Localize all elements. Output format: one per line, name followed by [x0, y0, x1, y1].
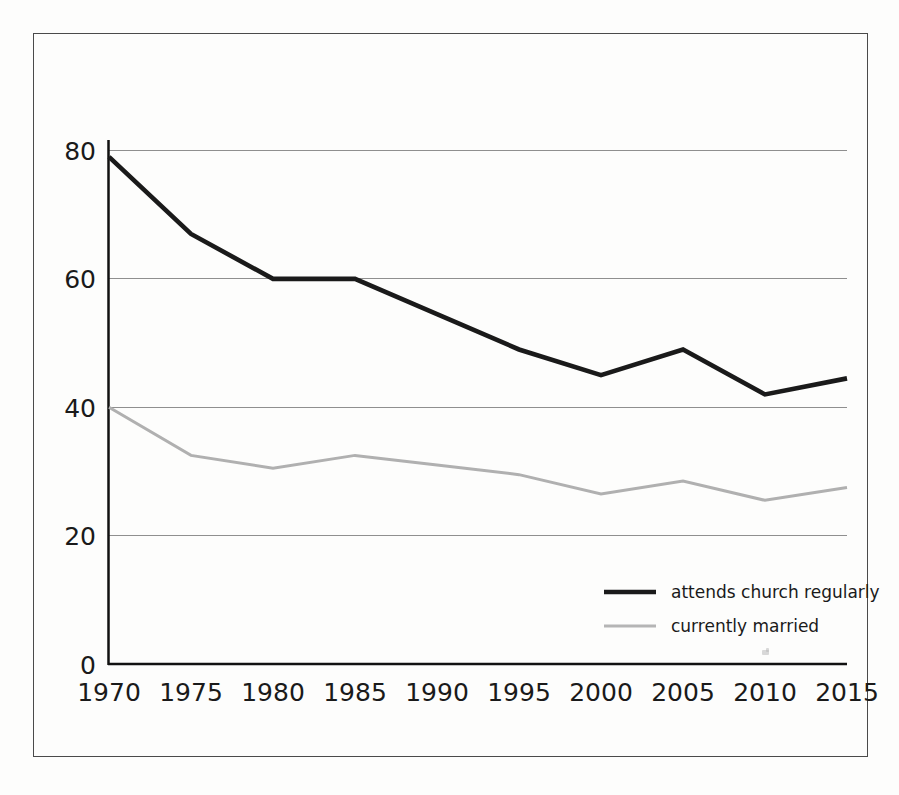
chart-legend: attends church regularly currently marri…	[604, 582, 880, 636]
legend-label-currently-married: currently married	[671, 616, 819, 636]
x-tick-label-1995: 1995	[487, 678, 551, 707]
y-tick-label-40: 40	[64, 394, 96, 423]
y-axis-tick-labels: 80 60 40 20 0	[64, 137, 96, 680]
x-tick-label-2010: 2010	[733, 678, 797, 707]
x-tick-label-2000: 2000	[569, 678, 633, 707]
page-canvas: 80 60 40 20 0 1970 1975 1980 1985 1990 1…	[0, 0, 899, 795]
x-tick-label-1990: 1990	[405, 678, 469, 707]
x-tick-label-2015: 2015	[815, 678, 879, 707]
gridlines	[109, 151, 847, 536]
scan-artifact	[762, 648, 769, 655]
x-tick-label-1975: 1975	[159, 678, 223, 707]
x-tick-label-1980: 1980	[241, 678, 305, 707]
x-tick-label-1970: 1970	[77, 678, 141, 707]
y-tick-label-80: 80	[64, 137, 96, 166]
legend-label-attends-church-regularly: attends church regularly	[671, 582, 880, 602]
line-chart: 80 60 40 20 0 1970 1975 1980 1985 1990 1…	[0, 0, 899, 795]
x-tick-label-2005: 2005	[651, 678, 715, 707]
series-line-currently-married	[109, 407, 847, 500]
y-tick-label-20: 20	[64, 522, 96, 551]
x-axis-tick-labels: 1970 1975 1980 1985 1990 1995 2000 2005 …	[77, 678, 879, 707]
y-tick-label-60: 60	[64, 265, 96, 294]
y-tick-label-0: 0	[80, 651, 96, 680]
series-line-attends-church-regularly	[109, 157, 847, 394]
x-tick-label-1985: 1985	[323, 678, 387, 707]
